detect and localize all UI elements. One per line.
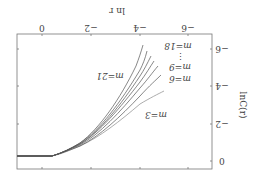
curve-m3 (17, 91, 164, 156)
chart-canvas: 0 −2 −4 −6 ln r 0 −2 −4 −6 lnC(r) m=18 ⋮… (0, 0, 257, 181)
y-axis-label: lnC(r) (238, 92, 248, 119)
legend-annotations: m=18 ⋮ m=9 m=6 m=3 m=21 (96, 41, 192, 120)
y-tick-neg6: −6 (215, 44, 229, 54)
x-tick-0: 0 (39, 23, 45, 33)
x-tick-neg2: −2 (84, 23, 97, 33)
y-tick-neg4: −4 (215, 81, 229, 91)
label-m6: m=6 (169, 74, 191, 84)
x-axis-label: ln r (108, 6, 125, 16)
label-dots: ⋮ (176, 51, 185, 61)
x-tick-neg6: −6 (181, 23, 195, 33)
y-tick-labels: 0 −2 −4 −6 (215, 44, 229, 166)
curve-m21 (17, 45, 143, 156)
label-m21: m=21 (96, 71, 124, 81)
label-m18: m=18 (164, 41, 192, 51)
label-m3: m=3 (145, 110, 167, 120)
curves (17, 45, 164, 156)
curve-m15 (17, 56, 151, 156)
x-tick-neg4: −4 (133, 23, 147, 33)
curve-m6 (17, 75, 161, 156)
y-tick-0: 0 (219, 156, 225, 166)
y-tick-neg2: −2 (215, 119, 228, 129)
x-axis (42, 34, 188, 169)
curve-m18 (17, 51, 147, 156)
x-tick-labels: 0 −2 −4 −6 (39, 23, 195, 33)
label-m9: m=9 (169, 62, 191, 72)
